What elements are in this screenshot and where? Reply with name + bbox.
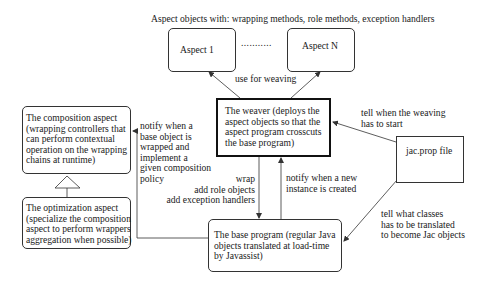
composition-aspect-label: The composition aspect (wrapping control…: [26, 113, 127, 166]
optimization-aspect-label: The optimization aspect (specialize the …: [26, 203, 132, 245]
weaver-box: The weaver (deploys the aspect objects s…: [216, 98, 331, 157]
aspect-1-box: Aspect 1: [168, 28, 236, 72]
edge-label-wrap: wrap add role objects add exception hand…: [165, 174, 255, 206]
optimization-aspect-box: The optimization aspect (specialize the …: [22, 197, 131, 249]
edge-label-tell-start: tell when the weaving has to start: [361, 108, 445, 129]
edge-label-tell-classes: tell what classes has to be translated t…: [381, 209, 465, 241]
weaver-label: The weaver (deploys the aspect objects s…: [225, 106, 321, 148]
jac-prop-file-label: jac.prop file: [406, 146, 452, 157]
jac-prop-file-box: jac.prop file: [396, 136, 464, 183]
aspect-ellipsis: ...........: [241, 38, 272, 49]
diagram-header: Aspect objects with: wrapping methods, r…: [151, 14, 434, 25]
edge-label-use-for-weaving: use for weaving: [235, 74, 296, 85]
aspect-1-label: Aspect 1: [180, 45, 214, 56]
aspect-n-label: Aspect N: [302, 41, 338, 52]
base-program-box: The base program (regular Java objects t…: [208, 219, 342, 272]
composition-aspect-box: The composition aspect (wrapping control…: [22, 106, 131, 174]
inheritance-triangle: [55, 176, 80, 188]
aspect-n-box: Aspect N: [287, 28, 355, 72]
edge-label-notify-instance: notify when a new instance is created: [286, 173, 357, 194]
base-program-label: The base program (regular Java objects t…: [214, 230, 335, 262]
